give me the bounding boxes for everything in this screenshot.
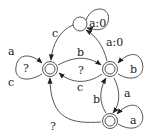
label-left-to-right: b [77, 46, 84, 59]
label-right-to-left-q: ? [78, 64, 84, 77]
label-right-self: b [130, 63, 137, 76]
label-bottom-to-right: b [93, 93, 100, 106]
state-left-accepting [43, 62, 58, 77]
label-bottom-to-left: ? [50, 120, 56, 133]
label-right-to-bottom: a [124, 87, 131, 100]
state-right-accepting [103, 62, 118, 77]
state-bottom-accepting [103, 114, 118, 129]
label-left-loop-a: a [8, 45, 15, 58]
label-left-loop-c: c [8, 76, 14, 89]
label-top-to-left: c [52, 27, 58, 40]
label-top-self: a:0 [89, 17, 106, 30]
label-right-to-top: a:0 [106, 36, 123, 49]
state-top [73, 17, 87, 31]
edge-right-to-bottom [113, 78, 119, 113]
edge-bottom-to-right [101, 78, 106, 113]
label-bottom-self: a [130, 114, 137, 127]
state-diagram: a:0 c a:0 a ? c b ? c b a b a ? [0, 0, 155, 139]
edge-right-to-top [86, 30, 107, 61]
label-left-loop-q: ? [23, 62, 29, 75]
label-right-to-left-c: c [77, 81, 83, 94]
